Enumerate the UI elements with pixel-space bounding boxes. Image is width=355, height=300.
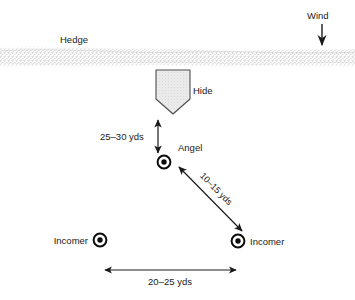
hide-to-angel-dimension: 25–30 yds bbox=[100, 120, 158, 153]
hedge-label: Hedge bbox=[60, 34, 88, 45]
angel-to-incomer-dimension: 10–15 yds bbox=[179, 167, 242, 231]
angel-marker bbox=[158, 156, 171, 169]
wind-label: Wind bbox=[307, 10, 329, 21]
angel-label: Angel bbox=[178, 142, 202, 153]
wind-indicator: Wind bbox=[307, 10, 329, 45]
incomer-span-label: 20–25 yds bbox=[148, 276, 192, 287]
shooting-layout-diagram: Hedge Wind Hide 25–30 yds Angel 10–15 yd… bbox=[0, 0, 355, 300]
hide-to-angel-label: 25–30 yds bbox=[100, 131, 144, 142]
hide-shape bbox=[156, 70, 190, 114]
hedge-band bbox=[0, 47, 355, 67]
diagram-canvas: Hedge Wind Hide 25–30 yds Angel 10–15 yd… bbox=[0, 0, 355, 300]
incomer-right-marker bbox=[232, 235, 245, 248]
hide-label: Hide bbox=[193, 85, 213, 96]
incomer-span-dimension: 20–25 yds bbox=[105, 270, 236, 287]
angel-to-incomer-label: 10–15 yds bbox=[198, 171, 235, 208]
incomer-right-label: Incomer bbox=[250, 236, 284, 247]
incomer-left-label: Incomer bbox=[54, 235, 88, 246]
incomer-left-marker bbox=[94, 234, 107, 247]
